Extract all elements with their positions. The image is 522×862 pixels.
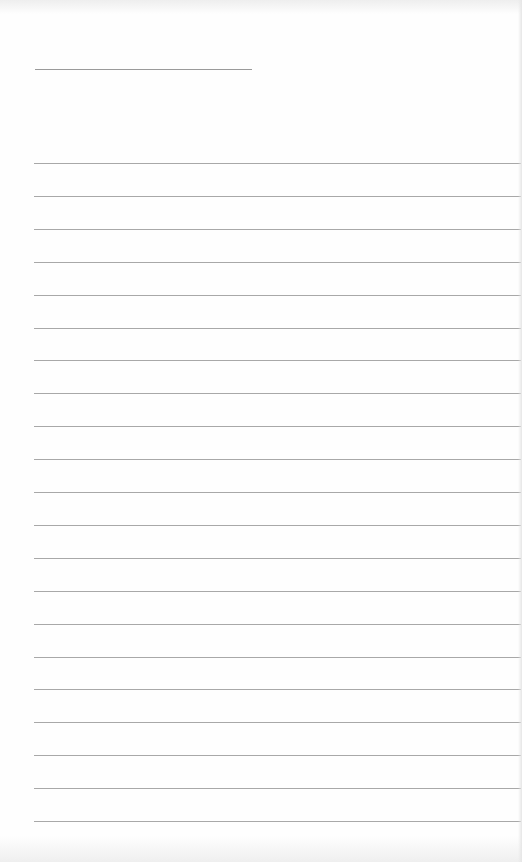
- ruled-line: [34, 821, 521, 822]
- ruled-line: [34, 624, 521, 625]
- ruled-line: [34, 328, 521, 329]
- ruled-line: [34, 689, 521, 690]
- ruled-line: [34, 229, 521, 230]
- page-bottom-shadow: [0, 836, 522, 862]
- ruled-line: [34, 459, 521, 460]
- ruled-line: [34, 755, 521, 756]
- ruled-line: [34, 722, 521, 723]
- ruled-line: [34, 262, 521, 263]
- page-top-shadow: [0, 0, 522, 14]
- page-right-edge: [518, 0, 522, 862]
- ruled-line: [34, 788, 521, 789]
- ruled-line: [34, 196, 521, 197]
- ruled-line: [34, 558, 521, 559]
- ruled-line: [34, 426, 521, 427]
- ruled-line: [34, 492, 521, 493]
- ruled-line: [34, 360, 521, 361]
- ruled-line: [34, 657, 521, 658]
- ruled-line: [34, 525, 521, 526]
- lined-paper-page: [0, 0, 522, 862]
- ruled-line: [34, 591, 521, 592]
- ruled-line: [34, 295, 521, 296]
- ruled-line: [34, 393, 521, 394]
- title-line: [35, 69, 252, 70]
- ruled-line: [34, 163, 521, 164]
